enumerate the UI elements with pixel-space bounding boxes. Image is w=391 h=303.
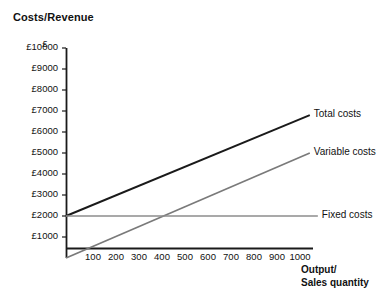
series-line-total-costs — [66, 115, 310, 216]
x-axis-tick-label: 1000 — [285, 251, 315, 262]
y-axis-tick-label: £2000 — [10, 209, 58, 220]
series-label-fixed-costs: Fixed costs — [322, 209, 373, 220]
x-axis-title: Output/ Sales quantity — [301, 263, 369, 289]
y-axis-ticks — [62, 48, 66, 237]
y-axis-tick-label: £7000 — [10, 104, 58, 115]
chart-container: Costs/Revenue £ £10000£9000£8000£7000£60… — [0, 0, 391, 303]
y-axis-tick-label: £5000 — [10, 146, 58, 157]
y-axis-tick-label: £4000 — [10, 167, 58, 178]
x-axis-title-line-1: Output/ — [301, 263, 369, 276]
y-axis-tick-label: £8000 — [10, 83, 58, 94]
series-label-variable-costs: Variable costs — [314, 146, 376, 157]
y-axis-tick-label: £1000 — [10, 230, 58, 241]
x-axis-title-line-2: Sales quantity — [301, 276, 369, 289]
series-label-total-costs: Total costs — [314, 108, 361, 119]
y-axis-tick-label: £6000 — [10, 125, 58, 136]
y-axis-tick-label: £9000 — [10, 62, 58, 73]
y-axis-tick-label: £10000 — [10, 41, 58, 52]
series-line-variable-costs — [66, 153, 310, 258]
chart-series-lines — [66, 115, 318, 258]
y-axis-tick-label: £3000 — [10, 188, 58, 199]
chart-axes — [62, 48, 313, 258]
